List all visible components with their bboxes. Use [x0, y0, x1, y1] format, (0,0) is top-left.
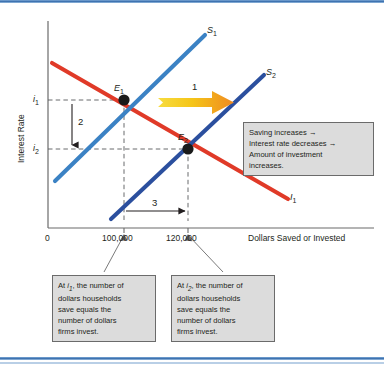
callout-eq2-line1: At i2, the number of: [177, 280, 269, 293]
equilibrium-point-e2: [182, 143, 193, 154]
curve-label-s2: S2: [266, 67, 276, 80]
shift-arrow-step1: [158, 91, 234, 114]
equilibrium-point-e1: [118, 94, 129, 105]
callout-eq2-line4: number of dollars: [177, 315, 269, 326]
callout-eq1-line3: save equals the: [58, 304, 150, 315]
step-number-1: 1: [192, 82, 197, 93]
x-axis-origin-label: 0: [45, 234, 50, 244]
slide-canvas: Interest Rate i1 i2 0 100,000 120,000 Do…: [0, 0, 384, 373]
supply-curve-1: [55, 35, 205, 181]
callout-eq2-line3: save equals the: [177, 304, 269, 315]
callout-eq2-line2: dollars households: [177, 293, 269, 304]
callout-eq1-line5: firms invest.: [58, 326, 150, 337]
y-tick-i1: i1: [33, 94, 39, 107]
step-number-2: 2: [78, 117, 83, 128]
x-axis-title: Dollars Saved or Invested: [248, 234, 345, 244]
callout-summary-line4: increases.: [249, 160, 368, 171]
curve-label-s1: S1: [207, 25, 217, 38]
curve-label-i1: I1: [290, 192, 296, 205]
x-tick-120000: 120,000: [166, 234, 197, 244]
callout-eq1-line4: number of dollars: [58, 315, 150, 326]
callout-summary-line3: Amount of investment: [249, 149, 368, 160]
y-tick-i2: i2: [33, 143, 39, 156]
callout-eq1-line2: dollars households: [58, 293, 150, 304]
loanable-funds-figure: Interest Rate i1 i2 0 100,000 120,000 Do…: [0, 3, 384, 355]
step-number-3: 3: [152, 198, 157, 209]
slide-bottom-rule: [0, 357, 384, 360]
callout-summary-line2: Interest rate decreases →: [249, 138, 368, 149]
callout-eq2-line5: firms invest.: [177, 326, 269, 337]
x-tick-100000: 100,000: [102, 234, 133, 244]
callout-eq1-line1: At i1, the number of: [58, 280, 150, 293]
y-axis-title: Interest Rate: [16, 114, 26, 163]
callout-equilibrium-1: At i1, the number of dollars households …: [52, 275, 156, 342]
equilibrium-label-e2: E2: [178, 132, 188, 145]
callout-summary-line1: Saving increases →: [249, 127, 368, 138]
callout-summary: Saving increases → Interest rate decreas…: [243, 122, 374, 176]
equilibrium-label-e1: E1: [114, 83, 124, 96]
callout-equilibrium-2: At i2, the number of dollars households …: [171, 275, 275, 342]
slide-bottom-rule-secondary: [0, 362, 384, 364]
